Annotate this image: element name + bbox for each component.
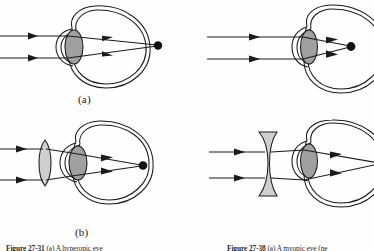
caption-left: Figure 27-31 (a) A hyperopic eye	[6, 244, 103, 251]
crystalline-lens	[301, 144, 318, 178]
focal-point-on-retina	[139, 161, 148, 170]
ray-arrowhead-upper-out	[330, 152, 342, 159]
optics-figure-sheet: (a)	[0, 0, 374, 251]
caption-left-figure-number: Figure 27-31	[6, 244, 45, 251]
ray-arrowhead-lower-in	[28, 55, 38, 62]
ray-arrowhead-lower-out	[330, 169, 342, 176]
focal-point-in-front-of-retina	[347, 42, 356, 51]
ray-arrowhead-lower-in	[234, 175, 245, 182]
ray-arrowhead-lower-in	[249, 56, 260, 63]
diagram-myopic-eye-corrected: (b)	[187, 118, 374, 251]
focal-point-behind-retina	[154, 41, 162, 49]
diagram-hyperopic-eye-corrected: (b)	[0, 118, 187, 251]
ray-arrowhead-lower-in	[16, 177, 27, 184]
crystalline-lens	[65, 30, 83, 64]
corrective-diverging-lens	[259, 132, 277, 196]
panel-label-a-left: (a)	[78, 93, 91, 105]
diagram-hyperopic-eye-uncorrected: (a)	[0, 0, 187, 118]
ray-arrowhead-upper-in	[16, 146, 27, 153]
ray-arrowhead-lower-out	[101, 167, 113, 174]
caption-right-figure-number: Figure 27-38	[227, 244, 266, 251]
diagram-myopic-eye-uncorrected: (a)	[187, 0, 374, 118]
caption-right: Figure 27-38 (a) A myopic eye (ne	[227, 244, 327, 251]
ray-arrowhead-upper-in	[249, 34, 260, 41]
intermediate-ray-lower	[271, 178, 304, 180]
ray-arrowhead-upper-in	[28, 33, 38, 40]
ray-arrowhead-upper-in	[234, 149, 245, 156]
eye-inner-retina-wall	[73, 10, 147, 84]
panel-label-b-left: (b)	[75, 226, 88, 238]
caption-right-body: (a) A myopic eye (ne	[267, 244, 327, 251]
caption-left-body: (a) A hyperopic eye	[46, 244, 102, 251]
ray-arrowhead-upper-out	[101, 155, 113, 162]
